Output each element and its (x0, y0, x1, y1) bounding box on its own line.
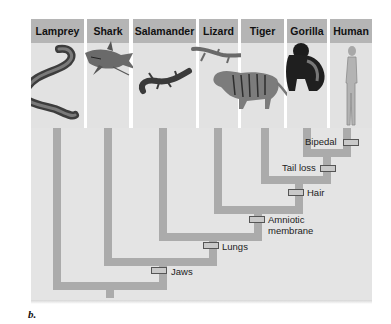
salamander-icon (133, 43, 196, 128)
trait-marker-jaws (151, 267, 167, 274)
branch-lizard (214, 128, 222, 213)
taxon-label: Gorilla (287, 19, 327, 43)
trait-marker-lungs (203, 242, 219, 249)
taxon-panel-human: Human (330, 19, 372, 128)
tiger-icon (241, 43, 284, 128)
taxon-panel-tiger: Tiger (241, 19, 284, 128)
taxon-panel-lamprey: Lamprey (31, 19, 84, 128)
human-icon (330, 43, 372, 128)
trait-label-tail-loss: Tail loss (282, 162, 316, 173)
taxon-panel-salamander: Salamander (133, 19, 196, 128)
branch-shark (104, 128, 112, 265)
trait-label-hair: Hair (307, 187, 324, 198)
taxon-label: Lamprey (31, 19, 84, 43)
trait-label-amniotic-membrane: Amniotic membrane (268, 214, 313, 236)
taxon-panel-gorilla: Gorilla (287, 19, 327, 128)
figure-caption: b. (28, 308, 36, 320)
branch-salamander (159, 128, 167, 240)
trait-marker-tail-loss (320, 165, 336, 172)
taxon-label: Tiger (241, 19, 284, 43)
trait-label-jaws: Jaws (171, 266, 193, 277)
branch-root-stub (106, 289, 114, 298)
taxon-label: Lizard (199, 19, 238, 43)
gorilla-icon (287, 43, 327, 128)
trait-label-lungs: Lungs (222, 241, 248, 252)
taxon-panel-shark: Shark (87, 19, 129, 128)
trait-marker-amniotic-membrane (249, 216, 265, 223)
trait-label-bipedal: Bipedal (305, 136, 337, 147)
taxon-label: Human (330, 19, 372, 43)
lamprey-icon (31, 43, 84, 128)
cladogram-shadow (31, 300, 372, 304)
shark-icon (87, 43, 129, 128)
taxon-label: Shark (87, 19, 129, 43)
taxon-label: Salamander (133, 19, 196, 43)
trait-marker-hair (288, 189, 304, 196)
branch-tiger (261, 128, 269, 183)
trait-marker-bipedal (343, 139, 359, 146)
branch-lamprey (53, 128, 61, 290)
